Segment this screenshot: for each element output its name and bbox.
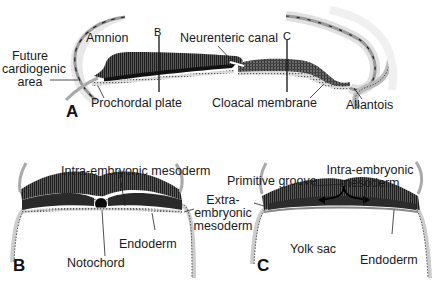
label-neurenteric-canal: Neurenteric canal [180, 32, 278, 45]
label-endoderm-b: Endoderm [119, 238, 177, 251]
label-endoderm-c: Endoderm [360, 254, 418, 267]
label-future-cardiogenic-area: Future cardiogenic area [2, 50, 58, 89]
label-cloacal-membrane: Cloacal membrane [212, 97, 317, 110]
label-notochord: Notochord [67, 257, 125, 270]
label-intra-c-line2: mesoderm [320, 177, 420, 190]
label-primitive-groove: Primitive groove [227, 175, 317, 188]
label-allantois: Allantois [346, 99, 393, 112]
section-marker-b: B [154, 26, 161, 38]
section-marker-c: C [283, 30, 291, 42]
label-intra-embryonic-mesoderm-b: Intra-embryonic mesoderm [61, 165, 210, 178]
panel-letter-c: C [257, 256, 269, 276]
label-yolk-sac: Yolk sac [290, 243, 336, 256]
label-extra-embryonic-mesoderm: Extra- embryonic mesoderm [190, 194, 256, 233]
panel-letter-b: B [13, 256, 25, 276]
label-intra-embryonic-mesoderm-c: Intra-embryonic mesoderm [320, 164, 420, 190]
label-amnion: Amnion [86, 32, 128, 45]
label-extra-line3: mesoderm [190, 220, 256, 233]
label-future-line3: area [2, 76, 58, 89]
panel-letter-a: A [66, 102, 78, 122]
label-prochordal-plate: Prochordal plate [91, 97, 182, 110]
panel-a-art [50, 10, 393, 108]
